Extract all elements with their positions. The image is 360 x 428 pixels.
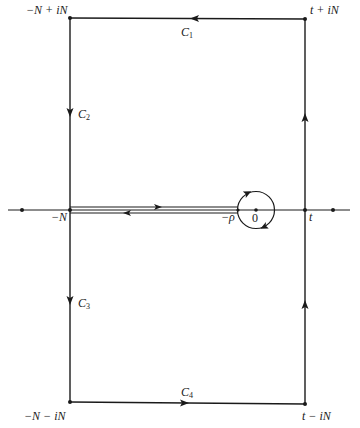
arrow-circle-top-icon (243, 189, 253, 198)
corner-point-bottom-left (68, 400, 72, 404)
point-minus-N (68, 208, 72, 212)
label-t: t (309, 210, 313, 224)
point-t (303, 208, 307, 212)
axis-point-right (331, 208, 335, 212)
label-c1: C1 (181, 25, 193, 40)
axis-point-left (20, 208, 24, 212)
label-top-right: t + iN (310, 3, 340, 17)
label-top-left: −N + iN (26, 3, 69, 17)
corner-point-top-left (68, 16, 72, 20)
label-c4: C4 (181, 385, 193, 400)
label-bottom-right: t − iN (302, 409, 332, 423)
corner-point-bottom-right (303, 402, 307, 406)
corner-point-top-right (303, 17, 307, 21)
label-minus-N: −N (51, 210, 68, 224)
label-c2: C2 (78, 107, 90, 122)
arrow-circle-bottom-icon (259, 222, 269, 231)
label-zero: 0 (252, 211, 258, 225)
label-bottom-left: −N − iN (24, 409, 67, 423)
label-c3: C3 (78, 296, 90, 311)
top-edge (70, 18, 305, 19)
contour-diagram: −N + iN t + iN −N − iN t − iN −N −ρ 0 t … (0, 0, 360, 428)
label-minus-rho: −ρ (221, 210, 235, 224)
